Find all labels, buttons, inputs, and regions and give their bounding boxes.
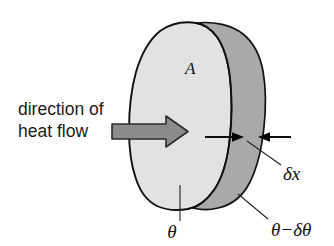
- leader-line-theta-delta: [238, 194, 268, 219]
- temperature-front-label: θ: [167, 221, 176, 242]
- area-label: A: [184, 59, 196, 78]
- direction-label-line1: direction of: [18, 99, 104, 119]
- slab-front-face: [129, 22, 232, 210]
- thickness-label: δx: [283, 163, 301, 184]
- direction-label-line2: heat flow: [18, 121, 88, 141]
- diagram-canvas: direction of heat flow A δx θ θ−δθ: [0, 0, 334, 246]
- temperature-back-label: θ−δθ: [271, 219, 311, 240]
- heat-flow-diagram: direction of heat flow A δx θ θ−δθ: [0, 0, 334, 246]
